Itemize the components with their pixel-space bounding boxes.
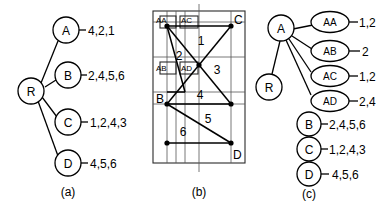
node-ab[interactable]: AB [311, 41, 349, 62]
panel-a: R A 4,2,1 B 2,4,5,6 C 1,2,4,3 [18, 17, 127, 199]
node-ad-label: AD [323, 96, 337, 107]
values-b: 2,4,5,6 [88, 69, 125, 83]
vertex-b [164, 101, 169, 106]
node-d-label: D [64, 157, 73, 171]
node-b[interactable]: B [55, 62, 81, 88]
node-c-c[interactable]: C [297, 137, 321, 161]
caption-a: (a) [61, 185, 76, 199]
region-label-2: 2 [176, 49, 183, 63]
panel-c: A R AA 1,2 AB 2 AC [256, 12, 376, 202]
values-ad: 2,4 [359, 95, 376, 109]
values-ac: 1,2 [359, 70, 376, 84]
vertex-bottom-left [164, 140, 169, 145]
vertex-c [228, 23, 233, 28]
label-cell-ac: AC [181, 16, 192, 25]
node-ac[interactable]: AC [311, 66, 349, 87]
node-c-b[interactable]: B [297, 112, 321, 136]
label-corner-d: D [233, 148, 242, 162]
figure-svg: R A 4,2,1 B 2,4,5,6 C 1,2,4,3 [0, 0, 390, 208]
values-c-d: 4,5,6 [332, 168, 359, 182]
node-ad[interactable]: AD [311, 91, 349, 112]
node-a-label: A [62, 24, 70, 38]
node-ac-label: AC [323, 71, 337, 82]
node-c-b-label: B [305, 118, 313, 132]
node-b-label: B [64, 69, 72, 83]
node-c-d-label: D [305, 168, 314, 182]
panel-b: AA AC AB AD C B D 1 2 3 4 5 6 (b) [153, 4, 245, 199]
region-label-6: 6 [180, 125, 187, 139]
region-label-3: 3 [214, 63, 221, 77]
vertex-right-mid [228, 101, 233, 106]
region-label-1: 1 [198, 34, 205, 48]
values-c-b: 2,4,5,6 [329, 118, 366, 132]
node-c-r-label: R [265, 81, 274, 95]
node-ab-label: AB [323, 46, 337, 57]
region-label-4: 4 [197, 88, 204, 102]
label-cell-aa: AA [156, 16, 167, 25]
node-c-c-label: C [305, 143, 314, 157]
node-c-a[interactable]: A [268, 15, 294, 41]
label-cell-ab: AB [156, 64, 167, 73]
caption-b: (b) [192, 185, 207, 199]
values-aa: 1,2 [359, 16, 376, 30]
label-corner-c: C [234, 13, 243, 27]
edge-r-to-c [42, 97, 57, 117]
edge-a-to-r [272, 41, 280, 74]
node-c-label: C [64, 116, 73, 130]
edge-a-to-ac [289, 39, 311, 72]
values-a: 4,2,1 [88, 24, 115, 38]
vertex-center [196, 62, 201, 67]
node-r[interactable]: R [18, 78, 44, 104]
edge-r-to-b [45, 80, 56, 87]
label-cell-ad: AD [181, 64, 192, 73]
node-c[interactable]: C [55, 109, 81, 135]
values-c: 1,2,4,3 [90, 116, 127, 130]
vertex-d [228, 140, 233, 145]
caption-c: (c) [302, 187, 316, 201]
label-corner-b: B [156, 92, 164, 106]
node-aa[interactable]: AA [311, 12, 349, 33]
node-r-label: R [27, 85, 36, 99]
node-c-a-label: A [277, 22, 285, 36]
edge-a-to-aa [293, 25, 313, 29]
node-a[interactable]: A [53, 17, 79, 43]
node-c-r[interactable]: R [256, 74, 282, 100]
node-aa-label: AA [323, 17, 337, 28]
node-d[interactable]: D [55, 150, 81, 176]
values-d: 4,5,6 [90, 157, 117, 171]
edge-r-to-d [38, 101, 58, 156]
region-label-5: 5 [205, 112, 212, 126]
values-ab: 2 [362, 45, 369, 59]
figure-container: R A 4,2,1 B 2,4,5,6 C 1,2,4,3 [0, 0, 390, 208]
node-c-d[interactable]: D [297, 162, 321, 186]
values-c-c: 1,2,4,3 [329, 143, 366, 157]
